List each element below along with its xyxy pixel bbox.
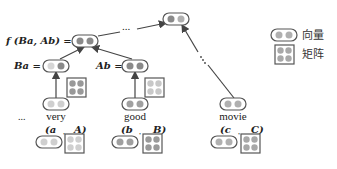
legend-vector-icon — [271, 29, 297, 41]
ab-vector-node — [122, 60, 148, 72]
edge-ba-to-composed — [60, 47, 84, 59]
ba-vector-node — [43, 60, 69, 72]
very-vector-node — [43, 98, 69, 110]
matrix-b — [143, 134, 162, 153]
matrix-b-upper — [145, 78, 164, 97]
good-vector-node — [122, 98, 148, 110]
word-movie: movie — [219, 110, 247, 122]
symbol-B: B) — [152, 124, 166, 135]
ba-label: Ba = — [13, 60, 41, 71]
legend-vector-label: 向量 — [302, 28, 324, 42]
movie-vector-node — [220, 98, 246, 110]
vector-b — [112, 136, 138, 148]
legend-matrix-icon — [275, 45, 294, 64]
top-vector-node — [163, 13, 189, 25]
separator-b: , — [139, 127, 141, 136]
edge-composed-to-ellipsis — [98, 32, 120, 36]
leading-ellipsis: ... — [18, 111, 26, 122]
composed-vector-node — [72, 35, 98, 47]
edge-ellipsis-to-top — [137, 23, 166, 29]
symbol-a: (a — [45, 124, 56, 135]
legend-matrix-label: 矩阵 — [302, 47, 324, 61]
matrix-a — [65, 134, 84, 153]
vector-a — [36, 136, 62, 148]
composed-label: f (Ba, Ab) = — [5, 35, 72, 47]
edge-movie-upper — [182, 25, 198, 52]
symbol-C: C) — [251, 124, 264, 135]
word-very: very — [46, 110, 66, 122]
edge-ab-to-composed — [92, 47, 132, 59]
ab-label: Ab = — [95, 60, 123, 71]
vector-c — [211, 136, 237, 148]
edge-movie-lower — [208, 65, 234, 98]
symbol-c: (c — [220, 124, 231, 135]
matrix-c — [241, 134, 260, 153]
separator-c: , — [238, 127, 240, 136]
diagram-canvas: ... f (Ba, Ab) = Ba = Ab = — [0, 0, 337, 169]
matrix-a-upper — [67, 78, 86, 97]
top-ellipsis: ... — [122, 20, 131, 32]
symbol-b: (b — [121, 124, 133, 135]
side-ellipsis-dots — [200, 56, 206, 64]
legend: 向量 矩阵 — [271, 28, 324, 64]
symbol-A: A) — [73, 124, 87, 135]
word-good: good — [124, 110, 147, 122]
